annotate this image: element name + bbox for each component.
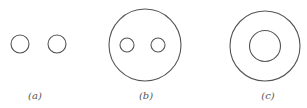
- panel-b-left-inner-circle: [120, 38, 134, 52]
- panel-c: (c): [230, 11, 300, 101]
- panel-c-label: (c): [261, 90, 275, 101]
- panel-c-outer-circle: [230, 11, 300, 81]
- panel-c-inner-circle: [250, 31, 281, 62]
- panel-a-right-circle: [48, 35, 66, 53]
- panel-b-label: (b): [139, 90, 153, 101]
- diagram-canvas: (a) (b) (c): [0, 0, 307, 108]
- panel-a-label: (a): [28, 90, 42, 101]
- panel-a-left-circle: [11, 35, 29, 53]
- panel-b: (b): [109, 9, 181, 101]
- panel-a: (a): [11, 35, 66, 101]
- panel-b-right-inner-circle: [151, 38, 165, 52]
